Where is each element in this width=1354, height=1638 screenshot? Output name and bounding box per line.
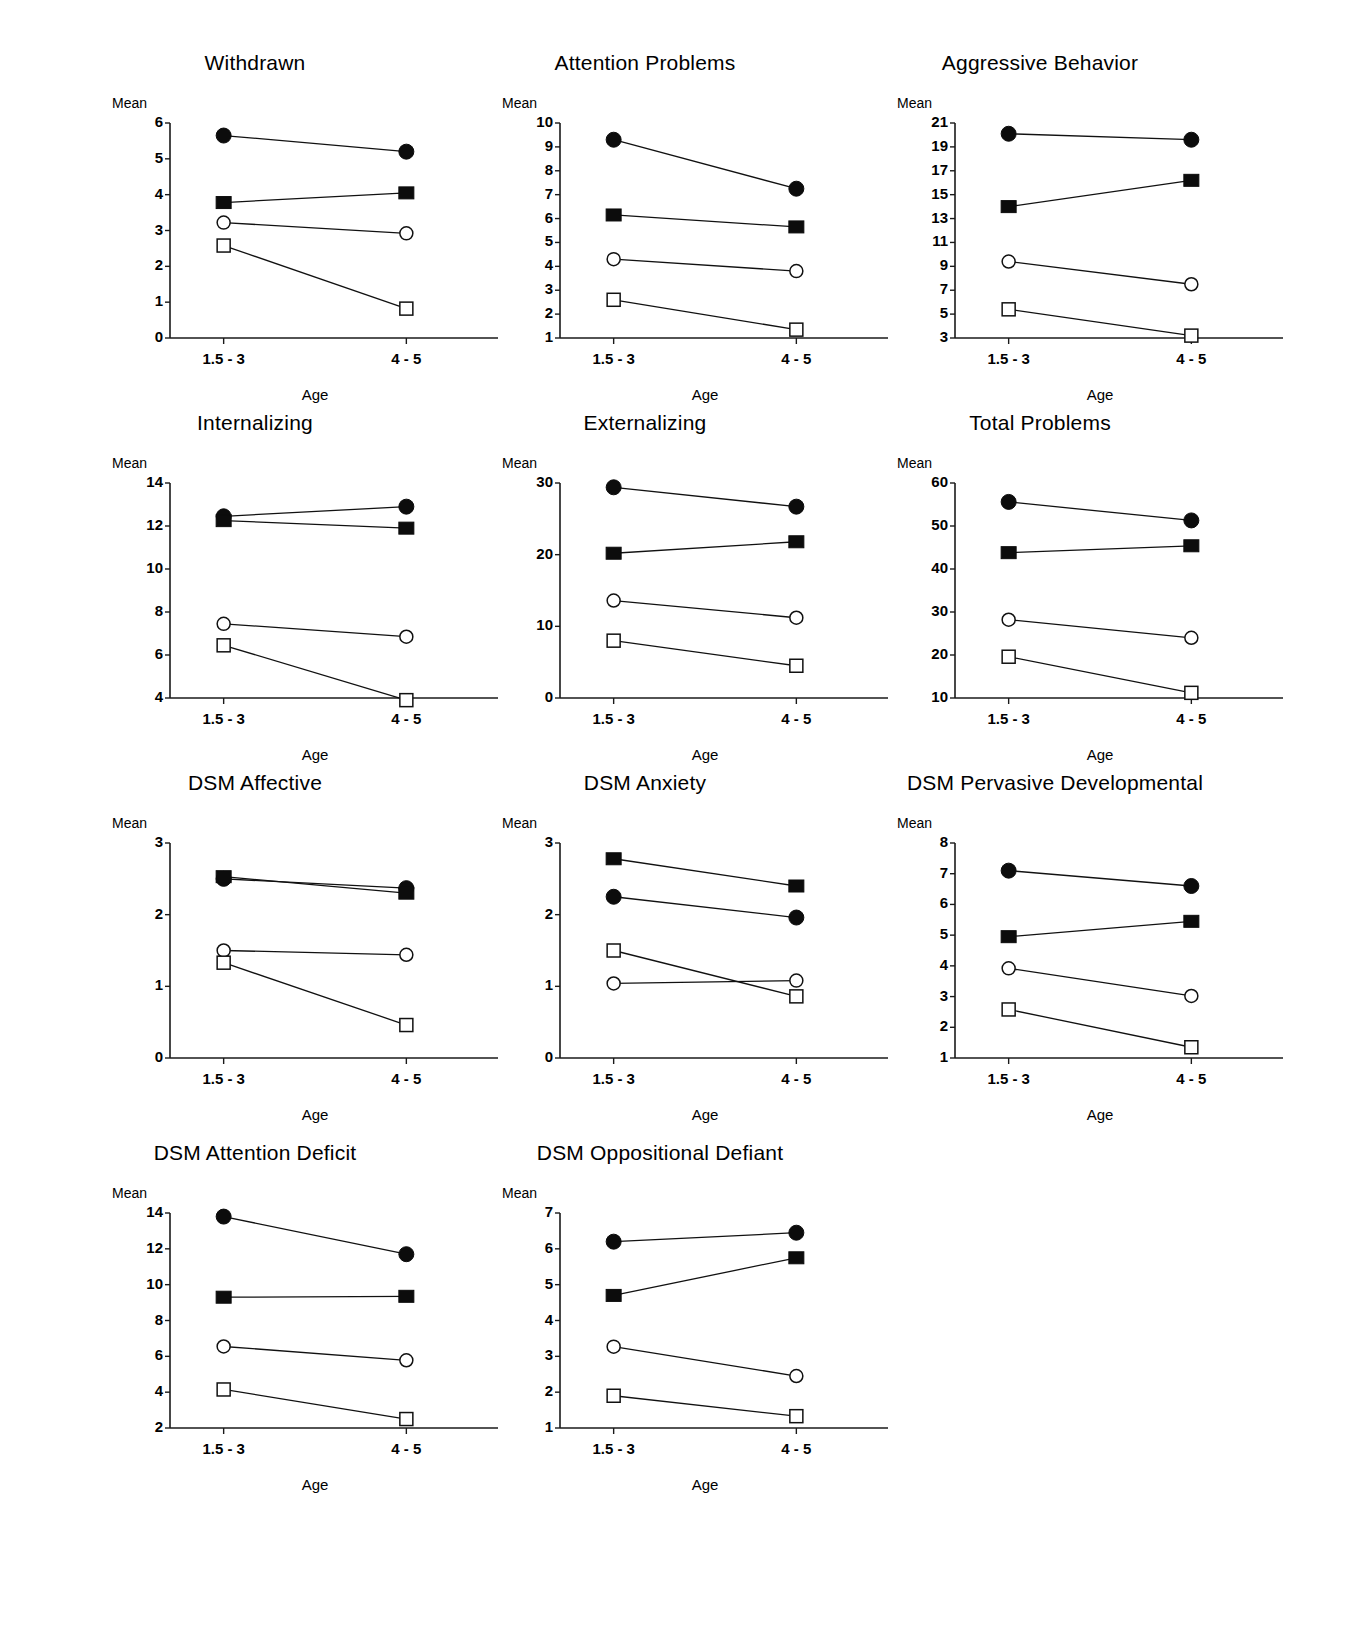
- y-tick-label: 10: [110, 1275, 163, 1292]
- chart-panel: WithdrawnMean01234561.5 - 34 - 5Age: [55, 45, 455, 405]
- data-point-open-circle: [790, 1370, 803, 1383]
- data-point-filled-square: [1184, 174, 1199, 186]
- data-point-open-circle: [790, 611, 803, 624]
- x-axis-title: Age: [540, 1106, 870, 1123]
- y-tick-label: 6: [110, 1346, 163, 1363]
- y-tick-label: 1: [500, 1418, 553, 1435]
- data-point-filled-square: [789, 1252, 804, 1264]
- data-point-filled-square: [399, 887, 414, 899]
- data-point-filled-square: [606, 209, 621, 221]
- series-line-open-circle: [614, 981, 797, 984]
- data-point-filled-circle: [606, 1234, 621, 1249]
- series-line-filled-circle: [224, 507, 407, 517]
- data-point-filled-circle: [1184, 513, 1199, 528]
- figure-sheet: WithdrawnMean01234561.5 - 34 - 5AgeAtten…: [0, 0, 1354, 1638]
- y-tick-label: 3: [110, 221, 163, 238]
- chart-panel: DSM Oppositional DefiantMean12345671.5 -…: [445, 1135, 845, 1495]
- y-tick-label: 9: [500, 137, 553, 154]
- series-line-filled-square: [614, 215, 797, 227]
- series-line-filled-circle: [1009, 134, 1192, 140]
- data-point-open-square: [1185, 329, 1198, 342]
- series-line-filled-circle: [1009, 871, 1192, 886]
- data-point-open-square: [217, 956, 230, 969]
- data-point-open-square: [217, 1383, 230, 1396]
- data-point-filled-circle: [789, 1225, 804, 1240]
- data-point-filled-circle: [789, 181, 804, 196]
- plot-area: [55, 765, 455, 1095]
- series-line-open-circle: [614, 601, 797, 618]
- y-tick-label: 7: [895, 864, 948, 881]
- series-line-filled-circle: [614, 1233, 797, 1242]
- y-tick-label: 3: [500, 280, 553, 297]
- y-tick-label: 60: [895, 473, 948, 490]
- data-point-filled-square: [606, 547, 621, 559]
- x-axis-title: Age: [150, 1476, 480, 1493]
- y-tick-label: 40: [895, 559, 948, 576]
- y-tick-label: 4: [500, 256, 553, 273]
- y-tick-label: 14: [110, 1203, 163, 1220]
- y-tick-label: 4: [500, 1311, 553, 1328]
- chart-panel: Attention ProblemsMean123456789101.5 - 3…: [445, 45, 845, 405]
- x-tick-label: 4 - 5: [1131, 1070, 1251, 1087]
- y-tick-label: 9: [895, 256, 948, 273]
- y-tick-label: 4: [110, 185, 163, 202]
- x-axis-title: Age: [150, 746, 480, 763]
- y-tick-label: 7: [895, 280, 948, 297]
- y-tick-label: 5: [500, 1275, 553, 1292]
- data-point-filled-circle: [789, 910, 804, 925]
- series-line-open-square: [614, 300, 797, 330]
- series-line-open-circle: [614, 1347, 797, 1376]
- y-tick-label: 10: [895, 688, 948, 705]
- x-tick-label: 1.5 - 3: [554, 1440, 674, 1457]
- data-point-open-circle: [1002, 962, 1015, 975]
- data-point-filled-circle: [1184, 879, 1199, 894]
- x-tick-label: 1.5 - 3: [164, 1440, 284, 1457]
- y-tick-label: 2: [500, 1382, 553, 1399]
- x-tick-label: 1.5 - 3: [949, 710, 1069, 727]
- y-tick-label: 5: [895, 304, 948, 321]
- chart-panel: Total ProblemsMean1020304050601.5 - 34 -…: [840, 405, 1240, 765]
- series-line-filled-circle: [224, 136, 407, 152]
- x-axis-title: Age: [540, 386, 870, 403]
- data-point-open-square: [217, 639, 230, 652]
- data-point-filled-square: [216, 871, 231, 883]
- data-point-filled-circle: [606, 480, 621, 495]
- y-tick-label: 12: [110, 516, 163, 533]
- y-tick-label: 11: [895, 232, 948, 249]
- series-line-open-square: [1009, 657, 1192, 693]
- y-tick-label: 8: [500, 161, 553, 178]
- series-line-filled-square: [224, 877, 407, 893]
- y-tick-label: 20: [500, 545, 553, 562]
- chart-panel: ExternalizingMean01020301.5 - 34 - 5Age: [445, 405, 845, 765]
- y-tick-label: 0: [500, 1048, 553, 1065]
- y-tick-label: 13: [895, 209, 948, 226]
- x-tick-label: 1.5 - 3: [949, 1070, 1069, 1087]
- series-line-open-square: [1009, 1009, 1192, 1047]
- data-point-filled-square: [1184, 915, 1199, 927]
- chart-panel: DSM Pervasive DevelopmentalMean123456781…: [840, 765, 1240, 1125]
- data-point-filled-square: [1001, 201, 1016, 213]
- data-point-open-square: [1185, 1041, 1198, 1054]
- series-line-open-square: [614, 1396, 797, 1416]
- data-point-open-circle: [217, 944, 230, 957]
- series-line-filled-square: [224, 193, 407, 203]
- series-line-filled-circle: [224, 1217, 407, 1255]
- data-point-open-square: [607, 1389, 620, 1402]
- data-point-filled-circle: [399, 499, 414, 514]
- data-point-filled-square: [789, 536, 804, 548]
- data-point-open-square: [400, 1019, 413, 1032]
- y-tick-label: 30: [895, 602, 948, 619]
- plot-area: [55, 45, 455, 375]
- data-point-open-circle: [400, 227, 413, 240]
- series-line-filled-circle: [614, 140, 797, 189]
- y-tick-label: 4: [110, 688, 163, 705]
- x-tick-label: 4 - 5: [1131, 710, 1251, 727]
- y-tick-label: 2: [500, 905, 553, 922]
- chart-panel: DSM AffectiveMean01231.5 - 34 - 5Age: [55, 765, 455, 1125]
- data-point-open-square: [400, 1413, 413, 1426]
- x-tick-label: 4 - 5: [736, 1440, 856, 1457]
- series-line-open-square: [224, 246, 407, 309]
- data-point-filled-square: [606, 1289, 621, 1301]
- data-point-filled-circle: [606, 889, 621, 904]
- data-point-open-square: [1002, 303, 1015, 316]
